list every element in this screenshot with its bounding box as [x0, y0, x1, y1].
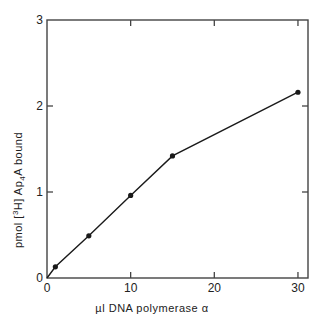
data-point [295, 90, 300, 95]
data-point [170, 153, 175, 158]
data-point [53, 264, 58, 269]
x-axis-label: µl DNA polymerase α [95, 302, 208, 314]
y-label-pre: pmol [ [12, 215, 24, 248]
y-tick-label: 1 [36, 185, 43, 199]
x-tick-label: 20 [208, 281, 222, 295]
x-tick-labels: 0102030 [44, 281, 305, 295]
x-tick-label: 0 [44, 281, 51, 295]
axes-box [47, 20, 308, 278]
y-axis-label: pmol [3H] Ap4A bound [11, 132, 27, 248]
chart: 0102030 0123 µl DNA polymerase α pmol [3… [0, 0, 326, 324]
x-tick-label: 10 [124, 281, 138, 295]
data-point [128, 193, 133, 198]
data-point [86, 233, 91, 238]
y-tick-label: 3 [36, 13, 43, 27]
y-tick-label: 0 [36, 271, 43, 285]
y-label-post: A bound [12, 132, 24, 176]
plot-frame [47, 20, 308, 278]
series-line [47, 92, 298, 278]
y-label-mid: H] Ap [12, 181, 24, 210]
x-tick-label: 30 [291, 281, 305, 295]
data-series [47, 90, 301, 278]
y-tick-labels: 0123 [36, 13, 43, 285]
axis-ticks [47, 20, 308, 278]
y-tick-label: 2 [36, 99, 43, 113]
